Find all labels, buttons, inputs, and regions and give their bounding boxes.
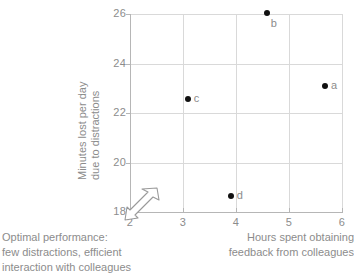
y-tick-mark [126,14,131,15]
x-tick-mark [342,208,343,213]
gridline-horizontal [130,113,342,114]
x-tick-label: 4 [226,216,246,228]
arrow-to-origin-icon [119,186,163,226]
gridline-horizontal [130,64,342,65]
y-tick-mark [126,64,131,65]
y-tick-mark [126,113,131,114]
x-tick-mark [289,208,290,213]
data-point-label-b: b [271,17,277,29]
data-point-d [228,193,234,199]
data-point-b [264,10,270,16]
y-axis-title: Minutes lost per day due to distractions [76,30,102,180]
y-axis-title-line2: due to distractions [89,30,102,180]
y-tick-mark [126,163,131,164]
annotation-line1: Optimal performance: [2,230,134,245]
x-tick-mark [183,208,184,213]
y-tick-label: 24 [100,57,126,69]
data-point-label-c: c [194,92,200,104]
data-point-a [322,83,328,89]
data-point-label-d: d [237,189,243,201]
x-axis-title-line2: feedback from colleagues [214,245,354,260]
x-axis-title-line1: Hours spent obtaining [214,230,354,245]
gridline-horizontal [130,163,342,164]
plot-area [130,14,342,212]
data-point-label-a: a [331,79,337,91]
gridline-vertical [342,14,343,212]
x-tick-mark [236,208,237,213]
optimal-performance-annotation: Optimal performance: few distractions, e… [2,230,134,275]
y-tick-label: 26 [100,7,126,19]
x-tick-label: 3 [173,216,193,228]
y-tick-label: 20 [100,156,126,168]
annotation-line2: few distractions, efficient [2,245,134,260]
x-tick-label: 5 [279,216,299,228]
gridline-horizontal [130,14,342,15]
annotation-line3: interaction with colleagues [2,260,134,275]
x-axis-title: Hours spent obtaining feedback from coll… [214,230,354,260]
y-tick-label: 22 [100,106,126,118]
y-axis-title-line1: Minutes lost per day [76,30,89,180]
x-tick-label: 6 [332,216,352,228]
